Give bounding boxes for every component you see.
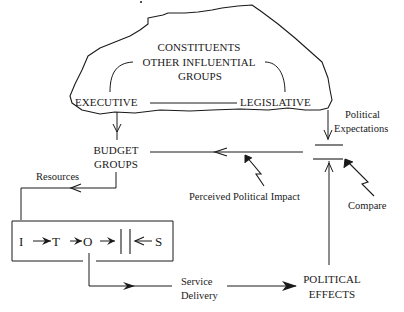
node-budget-groups: GROUPS <box>90 159 142 170</box>
compare-zigzag <box>346 160 374 196</box>
label-delivery: Delivery <box>181 291 218 302</box>
node-compare: Compare <box>348 201 387 212</box>
process-o: O <box>83 235 92 248</box>
label-political: Political <box>345 110 380 121</box>
service-delivery-line <box>89 253 172 286</box>
label-groups: GROUPS <box>170 71 230 82</box>
label-constituents: CONSTITUENTS <box>150 42 248 53</box>
node-executive: EXECUTIVE <box>75 97 138 108</box>
process-i: I <box>19 235 23 248</box>
node-political-effects: EFFECTS <box>297 289 367 300</box>
process-s: S <box>155 235 162 248</box>
perceived-impact-zigzag <box>246 156 264 186</box>
arrowhead-icon <box>344 159 353 168</box>
node-legislative: LEGISLATIVE <box>240 97 311 108</box>
process-t: T <box>52 235 60 248</box>
label-perceived-political-impact: Perceived Political Impact <box>189 192 300 203</box>
node-political: POLITICAL <box>297 274 367 285</box>
stray-mark <box>140 1 142 3</box>
influence-arc-left <box>110 62 133 92</box>
label-resources: Resources <box>36 172 79 183</box>
label-service: Service <box>181 277 213 288</box>
influence-arc-right <box>265 62 285 92</box>
node-budget: BUDGET <box>90 145 142 156</box>
label-other-influential: OTHER INFLUENTIAL <box>133 57 265 68</box>
label-expectations: Expectations <box>334 124 388 135</box>
